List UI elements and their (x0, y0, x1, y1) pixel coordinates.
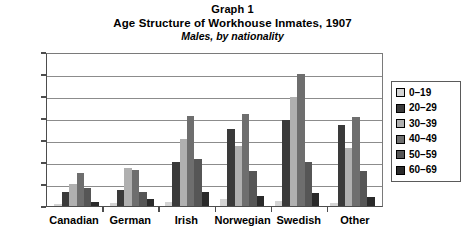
legend-swatch-icon (396, 135, 405, 144)
legend-swatch-icon (396, 166, 405, 175)
bar (220, 199, 227, 206)
legend-item-label: 20–29 (409, 103, 437, 113)
legend-item-label: 50–59 (409, 150, 437, 160)
chart-page: Graph 1 Age Structure of Workhouse Inmat… (0, 0, 465, 249)
legend-item[interactable]: 20–29 (396, 101, 457, 117)
bar (282, 120, 289, 206)
bar (139, 192, 146, 206)
bar (227, 129, 234, 206)
legend-item-label: 30–39 (409, 119, 437, 129)
bar (290, 97, 297, 206)
bar-group (220, 54, 264, 206)
bar (249, 171, 256, 206)
bar (305, 162, 312, 206)
legend-item-label: 40–49 (409, 134, 437, 144)
legend-swatch-icon (396, 150, 405, 159)
bar-group (330, 54, 374, 206)
bar-group (54, 54, 98, 206)
bar (257, 196, 264, 206)
bar (202, 192, 209, 206)
legend-item[interactable]: 50–59 (396, 147, 457, 163)
bar (69, 184, 76, 206)
bar (91, 202, 98, 206)
legend-item[interactable]: 40–49 (396, 132, 457, 148)
bar (187, 116, 194, 206)
bar (330, 203, 337, 206)
legend-item-label: 60–69 (409, 165, 437, 175)
bar-group (165, 54, 209, 206)
bar (360, 171, 367, 206)
bar-group (110, 54, 154, 206)
bar (275, 201, 282, 207)
plot-area (46, 53, 383, 207)
legend-item[interactable]: 60–69 (396, 163, 457, 179)
bar (194, 159, 201, 206)
x-axis-tick-label: Other (315, 214, 395, 227)
bar (312, 193, 319, 206)
legend-swatch-icon (396, 88, 405, 97)
chart-subtitle: Age Structure of Workhouse Inmates, 1907 (0, 16, 465, 30)
bar (345, 148, 352, 206)
bar (77, 173, 84, 206)
legend-swatch-icon (396, 104, 405, 113)
chart-subtitle-secondary: Males, by nationality (0, 30, 465, 43)
bar (147, 199, 154, 206)
legend-item[interactable]: 30–39 (396, 116, 457, 132)
bar (352, 117, 359, 206)
bar-group (275, 54, 319, 206)
chart-legend: 0–1920–2930–3940–4950–5960–69 (391, 81, 461, 182)
chart-title: Graph 1 (0, 3, 465, 16)
bar-groups (47, 54, 382, 206)
bar (165, 202, 172, 206)
bar (338, 125, 345, 206)
legend-item-label: 0–19 (409, 88, 431, 98)
bar (242, 114, 249, 206)
bar (367, 197, 374, 206)
caption-sliver (40, 241, 370, 247)
x-axis-tick-mark (271, 207, 272, 212)
bar (54, 204, 61, 206)
x-axis-tick-mark (327, 207, 328, 212)
bar (84, 188, 91, 206)
bar (180, 139, 187, 206)
bar (110, 203, 117, 206)
chart-titles: Graph 1 Age Structure of Workhouse Inmat… (0, 0, 465, 43)
bar (132, 170, 139, 206)
legend-swatch-icon (396, 119, 405, 128)
bar (235, 146, 242, 207)
x-axis-tick-mark (102, 207, 103, 212)
legend-item[interactable]: 0–19 (396, 85, 457, 101)
bar (297, 74, 304, 206)
bar (117, 190, 124, 207)
x-axis-tick-mark (158, 207, 159, 212)
x-axis-tick-mark (215, 207, 216, 212)
bar (172, 162, 179, 206)
bar (124, 168, 131, 207)
bar (62, 192, 69, 206)
